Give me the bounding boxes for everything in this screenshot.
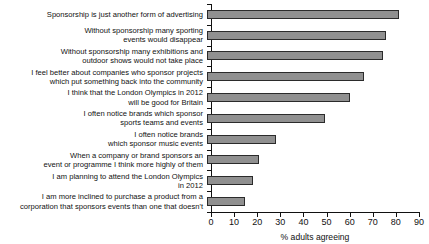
bar (207, 176, 253, 185)
category-label: Without sponsorship many exhibitions and… (0, 47, 207, 65)
category-label: I think that the London Olympics in 2012… (0, 88, 207, 106)
category-label: I am planning to attend the London Olymp… (0, 172, 207, 190)
chart-row: Without sponsorship many sporting events… (0, 25, 424, 46)
chart-row: Without sponsorship many exhibitions and… (0, 46, 424, 67)
chart-row: Sponsorship is just another form of adve… (0, 4, 424, 25)
bar (207, 51, 383, 60)
category-label: I feel better about companies who sponso… (0, 68, 207, 86)
category-label: Sponsorship is just another form of adve… (0, 10, 207, 19)
y-axis-tick (207, 4, 211, 5)
x-axis-tick-label: 90 (404, 217, 429, 228)
chart-row: I feel better about companies who sponso… (0, 66, 424, 87)
bar (207, 155, 259, 164)
bar-cell (207, 87, 424, 108)
bar (207, 135, 276, 144)
chart-row: I often notice brands which sponsor spor… (0, 108, 424, 129)
category-label: I often notice brands which sponsor musi… (0, 130, 207, 148)
chart-row: I think that the London Olympics in 2012… (0, 87, 424, 108)
bar-cell (207, 170, 424, 191)
bar-cell (207, 66, 424, 87)
chart-row: I am planning to attend the London Olymp… (0, 170, 424, 191)
bar-cell (207, 108, 424, 129)
chart-row: I often notice brands which sponsor musi… (0, 129, 424, 150)
bar (207, 72, 364, 81)
y-axis-tick (207, 46, 211, 47)
y-axis-tick (207, 170, 211, 171)
y-axis-tick (207, 129, 211, 130)
x-axis-line (211, 212, 420, 213)
bar (207, 93, 350, 102)
y-axis-tick (207, 191, 211, 192)
y-axis-tick (207, 150, 211, 151)
chart-row: I am more inclined to purchase a product… (0, 191, 424, 212)
category-label: Without sponsorship many sporting events… (0, 26, 207, 44)
bar (207, 10, 399, 19)
y-axis-tick (207, 108, 211, 109)
bar (207, 31, 386, 40)
chart-row: When a company or brand sponsors an even… (0, 150, 424, 171)
bar-cell (207, 191, 424, 212)
bar (207, 114, 325, 123)
bar-cell (207, 46, 424, 67)
category-label: I often notice brands which sponsor spor… (0, 109, 207, 127)
y-axis-tick (207, 66, 211, 67)
y-axis-tick (207, 87, 211, 88)
bar-cell (207, 129, 424, 150)
bar (207, 197, 245, 206)
category-label: I am more inclined to purchase a product… (0, 192, 207, 210)
y-axis-tick (207, 25, 211, 26)
bar-cell (207, 4, 424, 25)
x-axis-title: % adults agreeing (211, 232, 419, 242)
bar-cell (207, 25, 424, 46)
category-label: When a company or brand sponsors an even… (0, 151, 207, 169)
bar-cell (207, 150, 424, 171)
